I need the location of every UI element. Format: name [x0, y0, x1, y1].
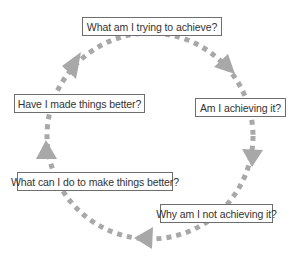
arrow-head-icon — [242, 149, 263, 167]
step-label: Why am I not achieving it? — [156, 208, 277, 220]
step-label: What am I trying to achieve? — [87, 21, 217, 33]
step-box-have-i-made-things-better: Have I made things better? — [14, 94, 145, 113]
step-label: Am I achieving it? — [200, 102, 281, 114]
arrow-head-icon — [134, 227, 153, 249]
arrow-head-icon — [36, 140, 57, 159]
step-label: What can I do to make things better? — [11, 176, 179, 188]
arrow-head-icon — [62, 52, 81, 79]
step-box-why-am-i-not-achieving-it: Why am I not achieving it? — [160, 204, 273, 223]
step-box-am-i-achieving-it: Am I achieving it? — [195, 98, 286, 117]
step-label: Have I made things better? — [18, 98, 141, 110]
step-box-what-am-i-trying-to-achieve: What am I trying to achieve? — [82, 17, 222, 36]
arrow-head-icon — [214, 54, 235, 74]
step-box-what-can-i-do: What can I do to make things better? — [17, 172, 173, 191]
